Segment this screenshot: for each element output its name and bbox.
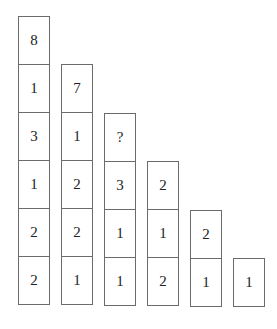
cell: 8 xyxy=(18,16,50,65)
unknown-cell: ? xyxy=(104,113,136,162)
cell: 1 xyxy=(190,258,222,307)
cell: 2 xyxy=(18,256,50,305)
cell: 3 xyxy=(104,161,136,210)
cell: 1 xyxy=(233,258,265,307)
cell: 1 xyxy=(18,160,50,209)
cell: 1 xyxy=(18,64,50,113)
cell: 7 xyxy=(61,64,93,113)
column-1: 8 1 3 1 2 2 xyxy=(18,16,50,305)
column-5: 2 1 xyxy=(190,210,222,307)
cell: 1 xyxy=(104,257,136,306)
column-2: 7 1 2 2 1 xyxy=(61,64,93,305)
column-6: 1 xyxy=(233,258,265,307)
cell: 2 xyxy=(147,161,179,210)
cell: 2 xyxy=(61,160,93,209)
column-4: 2 1 2 xyxy=(147,161,179,306)
cell: 1 xyxy=(104,209,136,258)
cell: 1 xyxy=(61,112,93,161)
cell: 2 xyxy=(147,257,179,306)
cell: 2 xyxy=(61,208,93,257)
cell: 1 xyxy=(147,209,179,258)
cell: 2 xyxy=(190,210,222,259)
column-3: ? 3 1 1 xyxy=(104,113,136,306)
cell: 1 xyxy=(61,256,93,305)
cell: 2 xyxy=(18,208,50,257)
cell: 3 xyxy=(18,112,50,161)
